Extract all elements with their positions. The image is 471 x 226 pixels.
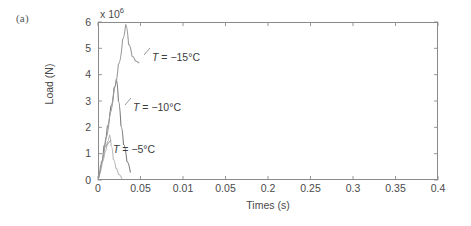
y-axis-exponent-power: 6: [120, 6, 124, 15]
x-tick-label: 0.25: [291, 183, 331, 194]
annotation-leader-0: [144, 48, 150, 55]
x-tick-label: 0.05: [206, 183, 246, 194]
x-tick-label: 0.05: [121, 183, 161, 194]
annotation-minus10: T = −10°C: [133, 101, 181, 113]
y-tick-label: 4: [65, 69, 91, 80]
annotation-minus5-value: = −5°C: [119, 143, 155, 155]
x-tick-label: 0.3: [333, 183, 373, 194]
figure-container: x 106 Load (N) Times (s) 6543210 00.050.…: [0, 0, 471, 226]
y-axis-title: Load (N): [43, 29, 55, 139]
y-tick-label: 3: [65, 96, 91, 107]
x-axis-title: Times (s): [98, 199, 438, 211]
annotation-minus15: T = −15°C: [152, 51, 200, 63]
annotation-minus10-value: = −10°C: [139, 101, 181, 113]
y-tick-label: 6: [65, 17, 91, 28]
x-tick-label: 0.2: [248, 183, 288, 194]
y-axis-exponent-prefix: x 10: [100, 8, 120, 20]
annotation-leader-1: [125, 98, 131, 105]
y-axis-exponent-label: x 106: [100, 6, 124, 20]
curve-1: [98, 79, 130, 178]
y-tick-label: 5: [65, 43, 91, 54]
y-tick-label: 2: [65, 122, 91, 133]
annotation-minus15-value: = −15°C: [158, 51, 200, 63]
y-tick-label: 1: [65, 148, 91, 159]
x-tick-label: 0.01: [163, 183, 203, 194]
x-tick-label: 0.4: [418, 183, 458, 194]
x-tick-label: 0: [78, 183, 118, 194]
annotation-minus5: T = −5°C: [113, 143, 155, 155]
x-tick-label: 0.35: [376, 183, 416, 194]
